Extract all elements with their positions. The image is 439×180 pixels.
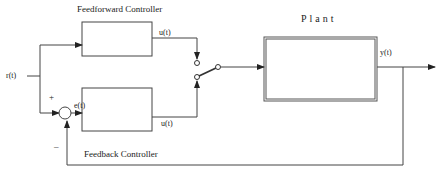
error-signal-label: e(t) — [74, 101, 85, 110]
feedforward-controller-block — [82, 22, 152, 56]
selector-switch — [195, 61, 221, 80]
feedback-controller-label: Feedback Controller — [84, 149, 158, 159]
feedforward-output-line — [152, 38, 197, 59]
reference-signal-label: r(t) — [6, 71, 16, 80]
switch-arm — [199, 68, 216, 76]
feedforward-output-label: u(t) — [159, 28, 171, 37]
plant-label: Plant — [301, 13, 337, 24]
feedback-output-line — [152, 81, 197, 117]
feedback-output-label: u(t) — [161, 119, 173, 128]
feedforward-controller-label: Feedforward Controller — [77, 4, 162, 14]
plant-block — [264, 37, 377, 101]
block-diagram-canvas — [0, 0, 439, 180]
switch-contact-top — [195, 61, 200, 66]
minus-sign: – — [54, 141, 59, 151]
feedback-controller-block — [82, 88, 152, 131]
plus-sign: + — [49, 92, 54, 102]
summing-junction — [59, 107, 71, 119]
switch-pivot — [216, 65, 221, 70]
plant-output-label: y(t) — [380, 48, 392, 57]
